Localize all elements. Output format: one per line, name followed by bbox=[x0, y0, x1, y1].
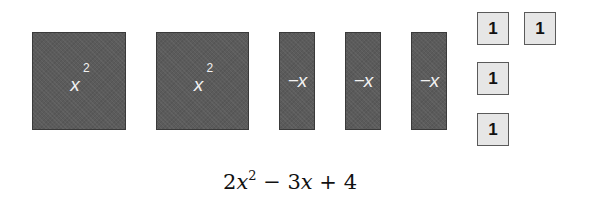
x-squared-tile: x2 bbox=[156, 32, 249, 130]
x-squared-label: x2 bbox=[70, 74, 80, 96]
expr-coefficient: 3 bbox=[287, 170, 300, 194]
x-squared-label: x2 bbox=[194, 74, 204, 96]
unit-tile: 1 bbox=[524, 12, 556, 45]
negative-x-label: −x bbox=[288, 70, 307, 92]
unit-label: 1 bbox=[488, 120, 497, 140]
expr-operator: − bbox=[257, 170, 288, 194]
expr-constant: 4 bbox=[344, 170, 357, 194]
negative-x-label: −x bbox=[354, 70, 373, 92]
polynomial-expression: 2x2 − 3x + 4 bbox=[223, 170, 373, 194]
expr-exponent: 2 bbox=[248, 168, 256, 183]
x-squared-base: x bbox=[194, 74, 204, 95]
negative-x-label: −x bbox=[420, 70, 439, 92]
unit-label: 1 bbox=[488, 19, 497, 39]
negative-x-tile: −x bbox=[345, 32, 381, 130]
x-squared-exponent: 2 bbox=[83, 61, 90, 75]
unit-label: 1 bbox=[488, 69, 497, 89]
unit-label: 1 bbox=[535, 19, 544, 39]
expr-operator: + bbox=[313, 170, 344, 194]
unit-tile: 1 bbox=[477, 113, 509, 146]
x-squared-tile: x2 bbox=[32, 32, 126, 130]
negative-x-tile: −x bbox=[411, 32, 447, 130]
x-squared-base: x bbox=[70, 74, 80, 95]
expr-variable: x bbox=[236, 170, 248, 194]
unit-tile: 1 bbox=[477, 12, 509, 45]
negative-x-tile: −x bbox=[279, 32, 315, 130]
x-squared-exponent: 2 bbox=[207, 61, 214, 75]
expr-variable: x bbox=[301, 170, 313, 194]
unit-tile: 1 bbox=[477, 62, 509, 95]
expr-coefficient: 2 bbox=[223, 170, 236, 194]
